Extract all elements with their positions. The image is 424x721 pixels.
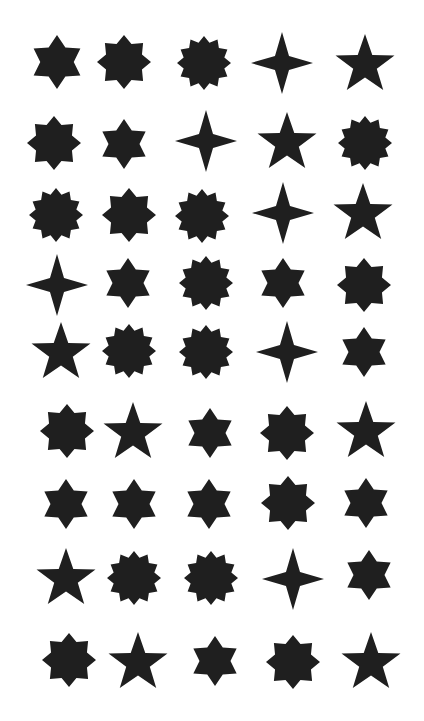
eight-point-star-icon	[42, 633, 96, 687]
eight-point-star-icon	[40, 404, 94, 458]
eight-point-star-icon	[266, 635, 320, 689]
eight-point-star-icon	[337, 258, 391, 312]
eight-point-star-icon	[102, 188, 156, 242]
eight-point-star-icon	[97, 35, 151, 89]
eight-point-star-icon	[260, 406, 314, 460]
eight-point-star-icon	[261, 476, 315, 530]
star-shapes-grid	[0, 0, 424, 721]
eight-point-star-icon	[27, 116, 81, 170]
